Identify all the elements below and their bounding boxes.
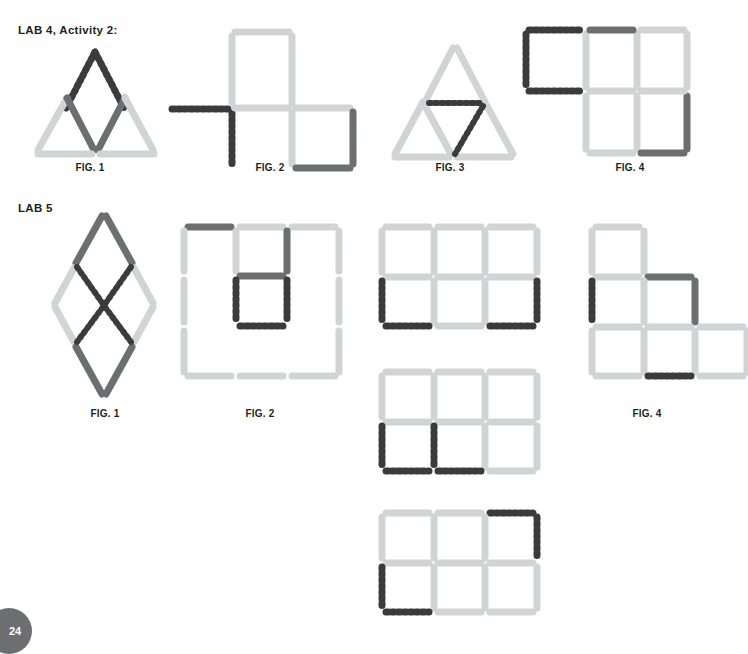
figure-lab5-fig3c xyxy=(368,508,548,633)
match-dark xyxy=(106,347,132,394)
match-light xyxy=(55,307,74,342)
lab5-fig3b-svg xyxy=(368,367,548,492)
page-number-badge: 24 xyxy=(0,608,32,654)
figure-lab5-fig3a xyxy=(368,222,548,347)
figure-lab4-fig2 xyxy=(160,20,360,160)
lab4-fig3-svg xyxy=(385,30,525,165)
lab4-fig2-label: FIG. 2 xyxy=(235,162,305,173)
match-light xyxy=(395,102,423,154)
match-light xyxy=(425,106,451,154)
lab4-fig3-label: FIG. 3 xyxy=(415,162,485,173)
lab5-fig3a-svg xyxy=(368,222,548,347)
lab5-fig4-svg xyxy=(578,222,738,397)
match-light xyxy=(134,307,153,342)
match-dashed xyxy=(77,307,103,342)
lab5-section-title: LAB 5 xyxy=(18,202,53,214)
match-dashed xyxy=(105,307,131,342)
lab5-fig2-svg xyxy=(182,222,347,387)
lab4-fig4-svg xyxy=(505,18,690,163)
match-dashed xyxy=(95,52,124,108)
match-dashed xyxy=(105,267,131,304)
match-light xyxy=(134,268,153,303)
figure-lab4-fig1 xyxy=(30,22,160,162)
figure-lab5-fig3b xyxy=(368,367,548,492)
figure-lab4-fig3 xyxy=(385,30,525,165)
lab4-fig1-label: FIG. 1 xyxy=(55,162,125,173)
match-dark xyxy=(106,216,132,263)
match-dashed xyxy=(455,106,483,154)
match-light xyxy=(38,98,67,150)
lab5-fig2-label: FIG. 2 xyxy=(225,408,295,419)
figure-lab5-fig4 xyxy=(578,222,738,397)
lab5-fig1-svg xyxy=(50,208,160,398)
match-light xyxy=(125,98,153,150)
lab4-fig1-svg xyxy=(30,22,160,162)
match-light xyxy=(55,268,74,303)
match-dark xyxy=(98,98,125,150)
match-light xyxy=(425,48,453,102)
lab5-fig3c-svg xyxy=(368,508,548,633)
match-dashed xyxy=(77,267,103,304)
lab4-fig2-svg xyxy=(160,20,360,160)
lab5-fig1-label: FIG. 1 xyxy=(70,408,140,419)
figure-lab4-fig4 xyxy=(505,18,690,163)
figure-lab5-fig2 xyxy=(182,222,347,387)
lab4-fig4-label: FIG. 4 xyxy=(595,162,665,173)
match-dark xyxy=(76,347,102,394)
lab5-fig4-label: FIG. 4 xyxy=(612,408,682,419)
figure-lab5-fig1 xyxy=(50,208,160,398)
match-light xyxy=(457,48,485,102)
match-dark xyxy=(67,98,94,150)
match-dark xyxy=(76,216,102,263)
